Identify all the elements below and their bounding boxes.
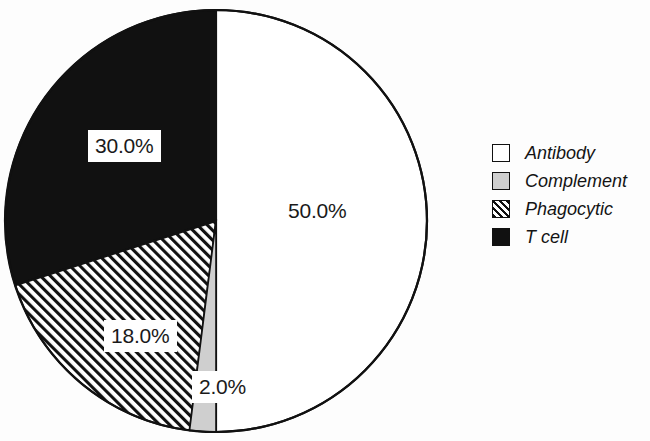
legend-label-t-cell: T cell [525, 228, 568, 246]
legend-label-complement: Complement [525, 172, 627, 190]
legend-item-complement: Complement [492, 167, 642, 195]
legend-label-antibody: Antibody [525, 144, 595, 162]
legend-item-antibody: Antibody [492, 139, 642, 167]
slice-label-phagocytic: 18.0% [104, 320, 177, 352]
legend-swatch-phagocytic [492, 200, 510, 218]
slice-label-t-cell: 30.0% [88, 130, 161, 162]
legend-swatch-complement [492, 172, 510, 190]
legend-swatch-t-cell [492, 228, 510, 246]
legend-label-phagocytic: Phagocytic [525, 200, 613, 218]
legend-item-phagocytic: Phagocytic [492, 195, 642, 223]
legend-item-t-cell: T cell [492, 223, 642, 251]
slice-label-complement: 2.0% [192, 371, 253, 403]
legend-swatch-antibody [492, 144, 510, 162]
pie-chart-figure: 30.0% 18.0% 2.0% 50.0% Antibody Compleme… [0, 0, 650, 441]
chart-legend: Antibody Complement Phagocytic T cell [492, 139, 642, 251]
slice-label-antibody: 50.0% [288, 200, 347, 221]
